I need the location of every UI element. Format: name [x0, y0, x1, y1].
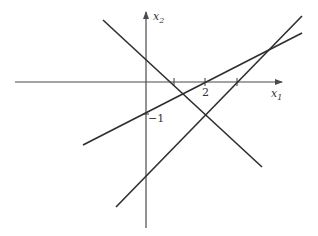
x1-axis-label: x1 [271, 87, 282, 102]
y-tick-label-minus-one: −1 [148, 112, 164, 125]
steep-ascending-line [116, 16, 302, 207]
x2-axis-label: x2 [153, 10, 164, 25]
x-tick-label-2: 2 [202, 86, 209, 99]
linear-system-diagram: x2 x1 2 −1 [0, 0, 318, 236]
